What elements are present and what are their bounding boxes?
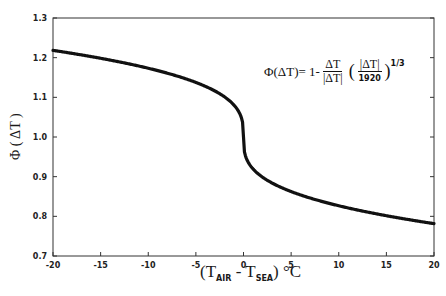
svg-text:1.3: 1.3 (33, 14, 47, 23)
formula-annotation: Φ (ΔT)= 1- ΔT |ΔT| ( |ΔT| 1920 ) 1/3 (264, 58, 405, 85)
svg-text:15: 15 (381, 261, 393, 270)
svg-text:10: 10 (333, 261, 345, 270)
svg-text:0.9: 0.9 (33, 173, 48, 182)
svg-text:-20: -20 (46, 261, 61, 270)
formula-paren-open: ( (349, 61, 355, 82)
formula-exponent: 1/3 (391, 59, 405, 68)
svg-text:0.7: 0.7 (33, 252, 47, 261)
formula-eq: (ΔT)= 1- (274, 64, 320, 80)
svg-text:1.1: 1.1 (33, 93, 48, 102)
svg-text:1.2: 1.2 (33, 54, 47, 63)
formula-fraction-2: |ΔT| 1920 (358, 58, 382, 85)
x-axis-label: (TAIR - TSEA) °C (200, 262, 301, 283)
formula-phi: Φ (264, 64, 274, 80)
y-axis-ticks: 0.70.80.91.01.11.21.3 (33, 14, 434, 261)
chart: 0.70.80.91.01.11.21.3 -20-15-10-50510152… (0, 0, 446, 296)
svg-text:1.0: 1.0 (33, 133, 48, 142)
svg-text:0.8: 0.8 (33, 212, 48, 221)
svg-text:-10: -10 (141, 261, 156, 270)
svg-text:20: 20 (428, 261, 440, 270)
svg-text:-15: -15 (93, 261, 108, 270)
y-axis-label: Φ ( ΔT ) (8, 113, 24, 160)
formula-fraction-1: ΔT |ΔT| (323, 58, 343, 85)
